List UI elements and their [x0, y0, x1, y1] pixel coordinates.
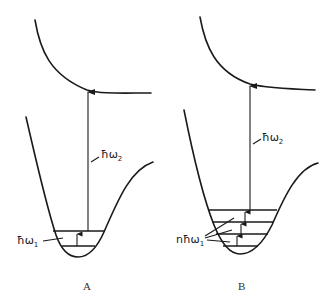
leader-line-b-w2	[253, 139, 261, 144]
excited-state-curve-b	[200, 17, 315, 90]
vibrational-label-b: nħω1	[176, 233, 204, 248]
panel-a: ħω2 ħω1 A	[17, 20, 153, 292]
excited-state-curve-a	[35, 20, 151, 93]
energy-level-diagram: ħω2 ħω1 A ħω2 nħω1 B	[0, 0, 334, 303]
leader-line-b-w1-3	[207, 240, 230, 242]
panel-label-a: A	[83, 280, 91, 292]
leader-line-a-w1	[43, 238, 63, 241]
panel-label-b: B	[238, 280, 245, 292]
excitation-label-a: ħω2	[101, 148, 122, 163]
excitation-label-b: ħω2	[262, 131, 283, 146]
vibrational-label-a: ħω1	[17, 234, 38, 249]
ground-state-well-b	[184, 110, 318, 254]
ground-state-well-a	[26, 117, 153, 257]
leader-line-a-w2	[91, 157, 99, 162]
panel-b: ħω2 nħω1 B	[176, 17, 318, 292]
